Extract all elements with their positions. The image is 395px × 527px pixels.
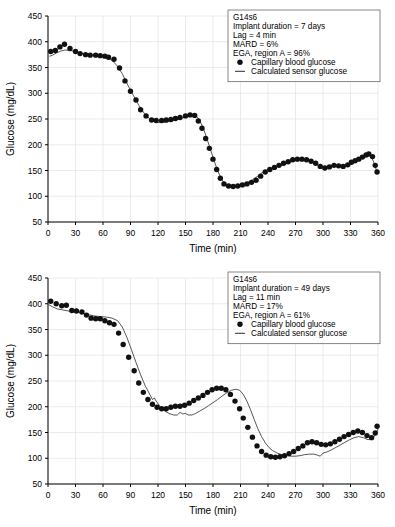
y-tick-label: 200 xyxy=(28,402,42,412)
capillary-glucose-marker xyxy=(48,298,53,303)
capillary-glucose-marker xyxy=(240,182,245,187)
capillary-glucose-marker xyxy=(337,436,342,441)
x-tick-label: 300 xyxy=(316,490,330,500)
capillary-glucose-marker xyxy=(117,65,122,70)
capillary-glucose-marker xyxy=(128,88,133,93)
capillary-glucose-marker xyxy=(253,178,258,183)
legend-info-line-2: Lag = 11 min xyxy=(233,293,280,302)
x-tick-label: 60 xyxy=(98,490,108,500)
y-tick-label: 350 xyxy=(28,325,42,335)
capillary-glucose-marker xyxy=(373,163,378,168)
figure-page: 5010015020025030035040045003060901201501… xyxy=(0,0,395,527)
capillary-glucose-marker xyxy=(228,392,233,397)
capillary-glucose-marker xyxy=(263,452,268,457)
x-tick-label: 330 xyxy=(343,490,357,500)
capillary-glucose-marker xyxy=(62,42,67,47)
capillary-glucose-marker xyxy=(268,454,273,459)
y-tick-label: 250 xyxy=(28,376,42,386)
y-tick-label: 350 xyxy=(28,63,42,73)
x-tick-label: 120 xyxy=(151,228,165,238)
capillary-glucose-marker xyxy=(164,117,169,122)
y-tick-label: 450 xyxy=(28,273,42,283)
capillary-glucose-marker xyxy=(232,398,237,403)
capillary-glucose-marker xyxy=(373,430,378,435)
capillary-glucose-marker xyxy=(314,440,319,445)
x-tick-label: 210 xyxy=(233,490,247,500)
capillary-glucose-marker xyxy=(304,157,309,162)
capillary-glucose-marker xyxy=(214,167,219,172)
capillary-glucose-marker xyxy=(327,164,332,169)
x-tick-label: 0 xyxy=(46,228,51,238)
capillary-glucose-marker xyxy=(196,395,201,400)
capillary-glucose-marker xyxy=(164,406,169,411)
capillary-glucose-marker xyxy=(199,126,204,131)
x-tick-label: 150 xyxy=(178,228,192,238)
capillary-glucose-marker xyxy=(340,164,345,169)
capillary-glucose-marker xyxy=(241,415,246,420)
capillary-glucose-marker xyxy=(186,400,191,405)
capillary-glucose-marker xyxy=(64,303,69,308)
x-tick-label: 210 xyxy=(233,228,247,238)
capillary-glucose-marker xyxy=(126,355,131,360)
capillary-glucose-marker xyxy=(250,434,255,439)
capillary-glucose-marker xyxy=(259,449,264,454)
capillary-glucose-marker xyxy=(309,439,314,444)
legend-info-line-2: Lag = 4 min xyxy=(233,31,276,40)
capillary-glucose-marker xyxy=(191,398,196,403)
legend-entry-label-0: Capillary blood glucose xyxy=(251,320,336,329)
y-axis-title-bottom: Glucose (mg/dL) xyxy=(5,344,16,418)
capillary-glucose-marker xyxy=(67,46,72,51)
capillary-glucose-marker xyxy=(106,55,111,60)
capillary-glucose-marker xyxy=(277,454,282,459)
capillary-glucose-marker xyxy=(57,44,62,49)
y-tick-label: 50 xyxy=(33,217,43,227)
x-tick-label: 270 xyxy=(288,228,302,238)
capillary-glucose-marker xyxy=(291,449,296,454)
capillary-glucose-marker xyxy=(187,112,192,117)
legend-marker-filled-circle-icon xyxy=(237,60,242,65)
y-tick-label: 300 xyxy=(28,350,42,360)
capillary-glucose-marker xyxy=(254,443,259,448)
x-tick-label: 180 xyxy=(206,490,220,500)
capillary-glucose-marker xyxy=(370,154,375,159)
chart-svg-top: 5010015020025030035040045003060901201501… xyxy=(0,0,395,265)
capillary-glucose-marker xyxy=(77,51,82,56)
legend-info-line-0: G14s6 xyxy=(233,275,258,284)
legend-info-line-3: MARD = 6% xyxy=(233,40,278,49)
capillary-glucose-marker xyxy=(133,97,138,102)
capillary-glucose-marker xyxy=(332,439,337,444)
capillary-glucose-marker xyxy=(369,435,374,440)
capillary-glucose-marker xyxy=(74,308,79,313)
capillary-glucose-marker xyxy=(235,183,240,188)
capillary-glucose-marker xyxy=(84,312,89,317)
capillary-glucose-marker xyxy=(218,176,223,181)
chart-panel-bottom: 5010015020025030035040045003060901201501… xyxy=(0,262,395,527)
capillary-glucose-marker xyxy=(296,446,301,451)
y-tick-label: 150 xyxy=(28,166,42,176)
legend-entry-label-0: Capillary blood glucose xyxy=(251,58,336,67)
x-tick-label: 0 xyxy=(46,490,51,500)
capillary-glucose-marker xyxy=(244,181,249,186)
capillary-glucose-marker xyxy=(207,146,212,151)
x-tick-label: 240 xyxy=(261,490,275,500)
x-tick-label: 120 xyxy=(151,490,165,500)
chart-panel-top: 5010015020025030035040045003060901201501… xyxy=(0,0,395,265)
capillary-glucose-marker xyxy=(177,115,182,120)
capillary-glucose-marker xyxy=(245,425,250,430)
y-tick-label: 100 xyxy=(28,191,42,201)
capillary-glucose-marker xyxy=(48,49,53,54)
capillary-glucose-marker xyxy=(182,403,187,408)
y-tick-label: 50 xyxy=(33,479,43,489)
y-tick-label: 150 xyxy=(28,428,42,438)
capillary-glucose-marker xyxy=(102,318,107,323)
capillary-glucose-marker xyxy=(168,117,173,122)
legend-info-line-4: EGA, region A = 61% xyxy=(233,311,310,320)
y-tick-label: 450 xyxy=(28,11,42,21)
capillary-glucose-marker xyxy=(122,78,127,83)
capillary-glucose-marker xyxy=(226,183,231,188)
capillary-glucose-marker xyxy=(328,441,333,446)
capillary-glucose-marker xyxy=(223,387,228,392)
y-axis-title-top: Glucose (mg/dL) xyxy=(5,82,16,156)
legend-info-line-0: G14s6 xyxy=(233,13,258,22)
capillary-glucose-marker xyxy=(355,428,360,433)
